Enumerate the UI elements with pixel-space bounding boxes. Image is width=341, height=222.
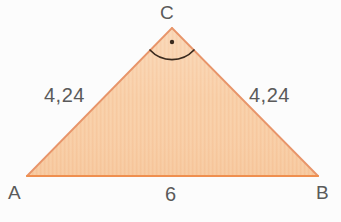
geometry-figure: C A B 4,24 4,24 6 — [0, 0, 341, 222]
right-angle-dot — [170, 40, 174, 44]
vertex-label-c: C — [160, 3, 174, 22]
side-length-label-ab: 6 — [165, 184, 177, 204]
side-length-label-bc: 4,24 — [249, 85, 290, 105]
vertex-label-a: A — [8, 183, 21, 202]
side-length-label-ac: 4,24 — [44, 85, 85, 105]
vertex-label-b: B — [316, 183, 329, 202]
